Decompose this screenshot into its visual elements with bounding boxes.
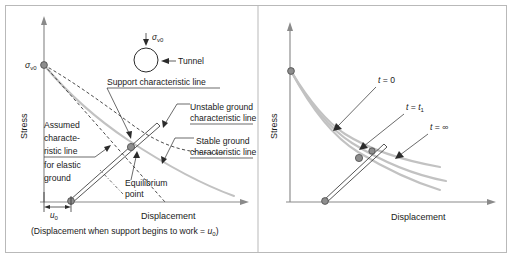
time-label-tinf-text: t = ∞ bbox=[430, 122, 448, 132]
u0-label: u0 bbox=[50, 211, 59, 221]
tunnel-circle-icon bbox=[134, 48, 158, 72]
time-label-tinf-leader bbox=[400, 134, 428, 155]
time-label-t0-leader bbox=[338, 87, 376, 126]
time-label-t1-leader bbox=[364, 114, 404, 146]
left-x-axis-label: Displacement bbox=[141, 211, 196, 221]
stable-ground-label-line2: characteristic line bbox=[190, 147, 257, 157]
support-characteristic-line-edge-b bbox=[72, 126, 160, 203]
support-line-label: Support characteristic line bbox=[107, 77, 206, 87]
time-label-t1: t = t1 bbox=[359, 102, 425, 150]
assumed-label-line2: characte- bbox=[44, 133, 80, 143]
right-initial-stress-node bbox=[288, 68, 295, 75]
u0-dimension: u0 bbox=[44, 192, 71, 221]
stable-ground-leader-d bbox=[165, 138, 175, 158]
initial-stress-label-text: σv0 bbox=[25, 60, 37, 71]
u0-arrowhead-right bbox=[65, 205, 71, 209]
time-label-tinf: t = ∞ bbox=[395, 122, 448, 159]
support-line-leader-arrowhead bbox=[126, 131, 132, 139]
figure-container: σv0 Stress Displacement u0 bbox=[0, 0, 512, 258]
equilibrium-leader-arrowhead bbox=[133, 151, 140, 158]
equilibrium-leader-solid bbox=[131, 157, 136, 180]
right-panel: t = 0 t = t1 t = ∞ bbox=[269, 22, 496, 222]
unstable-ground-leader-arrowhead bbox=[162, 120, 168, 128]
support-characteristic-line-cap bbox=[157, 123, 160, 126]
tunnel-characteristic-curves-figure: σv0 Stress Displacement u0 bbox=[0, 0, 512, 258]
equilibrium-leader-dashed bbox=[100, 170, 123, 194]
tunnel-label: Tunnel bbox=[178, 56, 204, 66]
assumed-label-line4: for elastic bbox=[44, 160, 81, 170]
time-label-t0-text: t = 0 bbox=[378, 75, 395, 85]
u0-arrowhead-left bbox=[44, 205, 50, 209]
right-x-axis-arrowhead bbox=[487, 199, 496, 205]
support-characteristic-line-edge-a bbox=[70, 123, 157, 200]
unstable-ground-label-line1: Unstable ground bbox=[190, 102, 253, 112]
left-panel: σv0 Stress Displacement u0 bbox=[19, 16, 257, 237]
left-x-axis-arrowhead bbox=[240, 199, 249, 205]
assumed-label-line3: ristic line bbox=[44, 146, 78, 156]
time-label-t1-text: t = t1 bbox=[406, 102, 425, 113]
stable-ground-label-line1: Stable ground bbox=[196, 136, 250, 146]
assumed-label-leader bbox=[95, 149, 106, 157]
right-x-axis-label: Displacement bbox=[391, 212, 446, 222]
left-initial-stress-label: σv0 bbox=[25, 60, 37, 71]
stable-ground-callout: Stable ground characteristic line bbox=[161, 136, 257, 164]
right-y-axis-label: Stress bbox=[269, 113, 279, 139]
unstable-ground-leader-d bbox=[166, 104, 177, 122]
right-equilibrium-node-2 bbox=[369, 148, 375, 154]
initial-stress-node bbox=[41, 62, 48, 69]
left-y-axis-label: Stress bbox=[19, 113, 29, 139]
tunnel-sketch: σv0 Tunnel bbox=[134, 33, 204, 72]
ground-curve-t0 bbox=[291, 71, 440, 167]
overburden-arrowhead bbox=[143, 39, 149, 46]
overburden-stress-label: σv0 bbox=[152, 33, 164, 43]
assumed-label-line1: Assumed bbox=[44, 120, 80, 130]
assumed-label-line5: ground bbox=[44, 173, 71, 183]
ground-curve-tinf bbox=[291, 71, 440, 190]
right-support-line-cap bbox=[384, 144, 387, 147]
right-support-start-node bbox=[322, 198, 329, 205]
assumed-label-leader-arrowhead bbox=[104, 145, 111, 152]
left-panel-caption: (Displacement when support begins to wor… bbox=[31, 226, 219, 237]
unstable-ground-callout: Unstable ground characteristic line bbox=[162, 102, 257, 128]
left-y-axis-arrowhead bbox=[41, 16, 47, 25]
right-equilibrium-node-1 bbox=[355, 154, 362, 161]
time-label-t0: t = 0 bbox=[333, 75, 395, 131]
equilibrium-label-line2: point bbox=[125, 189, 144, 199]
right-y-axis-arrowhead bbox=[287, 22, 293, 31]
unstable-ground-label-line2: characteristic line bbox=[190, 113, 257, 123]
tunnel-leader-arrowhead bbox=[161, 58, 169, 64]
equilibrium-node bbox=[127, 143, 134, 150]
